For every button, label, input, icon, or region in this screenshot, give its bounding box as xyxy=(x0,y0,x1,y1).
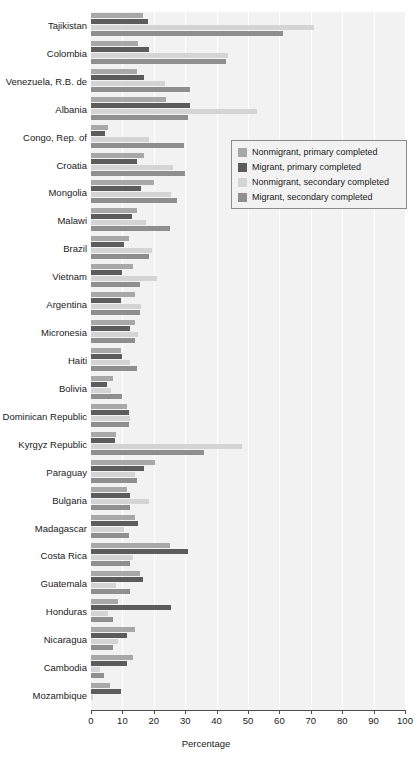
category-label: Micronesia xyxy=(41,328,87,338)
bar xyxy=(91,298,121,303)
bar xyxy=(91,487,127,492)
bar xyxy=(91,276,157,281)
bar xyxy=(91,198,177,203)
legend-item: Migrant, primary completed xyxy=(238,161,400,173)
x-tick-label: 0 xyxy=(79,715,103,726)
category-label: Cambodia xyxy=(44,663,87,673)
bar xyxy=(91,248,152,253)
bar xyxy=(91,226,170,231)
bar xyxy=(91,661,127,666)
bar xyxy=(91,13,143,18)
category-label: Albania xyxy=(55,105,87,115)
x-axis: 0102030405060708090100 xyxy=(91,710,405,736)
category-label: Guatemala xyxy=(41,579,87,589)
bar xyxy=(91,555,133,560)
x-tick-mark xyxy=(405,710,406,714)
x-axis-title: Percentage xyxy=(0,738,412,749)
bar xyxy=(91,143,184,148)
bar xyxy=(91,180,154,185)
category-label: Costa Rica xyxy=(41,551,87,561)
legend: Nonmigrant, primary completedMigrant, pr… xyxy=(231,140,407,209)
bar xyxy=(91,19,148,24)
bar xyxy=(91,214,132,219)
bar xyxy=(91,444,242,449)
bar xyxy=(91,115,188,120)
bar xyxy=(91,533,129,538)
category-label: Tajikistan xyxy=(48,21,87,31)
x-tick-mark xyxy=(279,710,280,714)
bar-group xyxy=(91,291,405,319)
category-label: Brazil xyxy=(63,244,87,254)
category-label: Argentina xyxy=(46,300,87,310)
bar xyxy=(91,165,173,170)
x-tick-label: 50 xyxy=(236,715,260,726)
bar xyxy=(91,695,93,700)
bar-rows xyxy=(91,12,405,710)
bar xyxy=(91,242,124,247)
bar xyxy=(91,25,314,30)
x-tick-mark xyxy=(311,710,312,714)
bar xyxy=(91,505,130,510)
bar xyxy=(91,320,135,325)
x-tick-mark xyxy=(154,710,155,714)
x-tick-label: 90 xyxy=(362,715,386,726)
category-label: Malawi xyxy=(57,216,87,226)
category-axis-labels: TajikistanColombiaVenezuela, R.B. deAlba… xyxy=(0,12,87,710)
bar xyxy=(91,338,135,343)
bar xyxy=(91,543,170,548)
bar xyxy=(91,438,115,443)
bar-group xyxy=(91,40,405,68)
legend-item: Migrant, secondary completed xyxy=(238,191,400,203)
category-label: Kyrgyz Republic xyxy=(18,440,87,450)
bar xyxy=(91,292,135,297)
bar xyxy=(91,220,146,225)
category-label: Bulgaria xyxy=(52,496,87,506)
category-label: Nicaragua xyxy=(44,635,87,645)
plot-area xyxy=(91,12,405,710)
bar-group xyxy=(91,459,405,487)
bar xyxy=(91,561,130,566)
legend-swatch-icon xyxy=(238,163,247,172)
bar xyxy=(91,208,137,213)
bar xyxy=(91,31,283,36)
legend-label: Migrant, primary completed xyxy=(252,162,361,173)
bar xyxy=(91,354,122,359)
bar xyxy=(91,577,143,582)
bar xyxy=(91,264,133,269)
x-tick-mark xyxy=(91,710,92,714)
x-tick-label: 70 xyxy=(299,715,323,726)
category-label: Venezuela, R.B. de xyxy=(6,77,87,87)
x-tick-label: 80 xyxy=(330,715,354,726)
bar xyxy=(91,639,118,644)
bar xyxy=(91,605,171,610)
bar xyxy=(91,376,113,381)
bar xyxy=(91,404,127,409)
x-tick-label: 20 xyxy=(142,715,166,726)
bar-group xyxy=(91,235,405,263)
bar xyxy=(91,589,130,594)
x-tick-mark xyxy=(217,710,218,714)
x-tick-mark xyxy=(122,710,123,714)
bar-group xyxy=(91,682,405,710)
bar xyxy=(91,617,113,622)
bar xyxy=(91,633,127,638)
bar-group xyxy=(91,514,405,542)
bar xyxy=(91,416,130,421)
bar-group xyxy=(91,96,405,124)
bar xyxy=(91,460,155,465)
legend-label: Migrant, secondary completed xyxy=(252,192,373,203)
bar xyxy=(91,87,190,92)
category-label: Vietnam xyxy=(52,272,87,282)
legend-swatch-icon xyxy=(238,178,247,187)
bar xyxy=(91,366,137,371)
bar xyxy=(91,673,104,678)
bar-group xyxy=(91,207,405,235)
bar xyxy=(91,422,129,427)
bar xyxy=(91,69,137,74)
bar xyxy=(91,450,204,455)
category-label: Honduras xyxy=(46,607,87,617)
bar xyxy=(91,655,133,660)
category-label: Mongolia xyxy=(48,188,87,198)
bar xyxy=(91,472,135,477)
